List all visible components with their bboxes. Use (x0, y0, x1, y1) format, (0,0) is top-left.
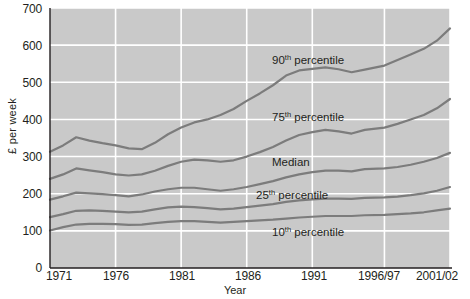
series-label-median: Median (272, 156, 310, 168)
plot-background (50, 8, 450, 268)
chart-plot-area: 90th percentile75th percentileMedian25th… (0, 0, 470, 299)
chart-root: £ per week Year 700 600 500 400 300 200 … (0, 0, 470, 299)
series-label-90th-percentile: 90th percentile (272, 53, 344, 66)
series-label-10th-percentile: 10th percentile (272, 225, 344, 238)
series-label-25th-percentile: 25th percentile (256, 188, 328, 201)
series-label-75th-percentile: 75th percentile (272, 110, 344, 123)
